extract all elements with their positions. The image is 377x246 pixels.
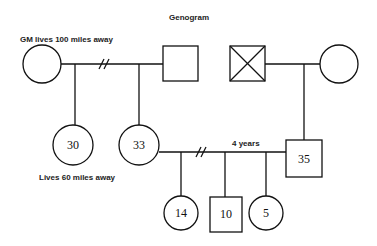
husband-35-age: 35 [298, 152, 310, 166]
gm-note: GM lives 100 miles away [20, 35, 113, 44]
diagram-title: Genogram [169, 13, 209, 22]
genogram-diagram: Genogram GM lives 100 miles away 30 Live… [0, 0, 377, 246]
child-14-age: 14 [175, 206, 187, 220]
daughter-30-note: Lives 60 miles away [39, 173, 116, 182]
daughter-33-age: 33 [133, 138, 145, 152]
daughter-30-age: 30 [67, 138, 79, 152]
grandfather-square [163, 46, 198, 81]
grandmother-circle [23, 45, 61, 83]
child-5-age: 5 [263, 206, 269, 220]
marriage-duration: 4 years [232, 139, 260, 148]
child-10-age: 10 [220, 207, 232, 221]
paternal-female-circle [320, 45, 358, 83]
